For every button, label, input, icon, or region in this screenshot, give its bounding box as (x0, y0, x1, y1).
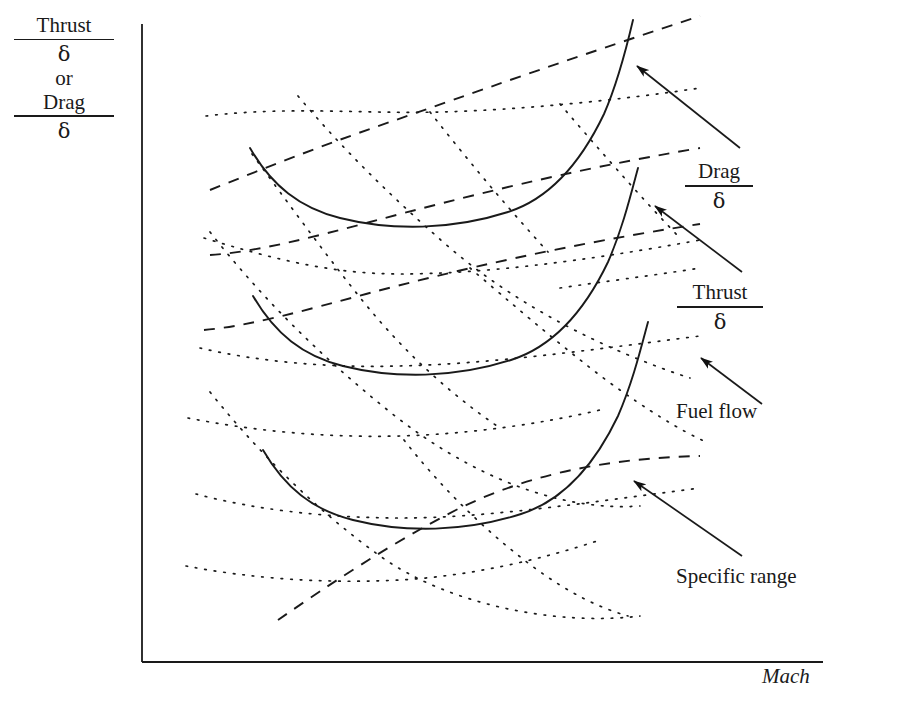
thrust-curve-1 (210, 16, 700, 190)
fuel-flow-callout-arrow (701, 358, 762, 404)
x-axis-label: Mach (762, 664, 810, 689)
thrust-curve-4 (278, 456, 700, 620)
fuel-flow-line-3 (200, 336, 700, 366)
specific-range-line-5 (470, 268, 706, 442)
callout-label-specific-range: Specific range (676, 565, 797, 588)
specific-range-line-7 (560, 104, 678, 236)
callout-label-thrust: Thrust δ (675, 281, 765, 334)
fuel-flow-line-5 (186, 540, 600, 581)
specific-range-line-3 (210, 392, 640, 619)
callout-thrust-denominator: δ (675, 311, 765, 334)
drag-callout-arrow (637, 66, 740, 148)
drag-curve-2 (253, 168, 638, 375)
thrust-curve-2 (210, 148, 700, 255)
thrust-curve-3 (204, 224, 700, 330)
specific-range-callout-arrow (634, 481, 742, 556)
figure-canvas: Thrust δ or Drag δ (0, 0, 915, 717)
drag-curve-1 (250, 20, 633, 227)
thrust-callout-arrow (655, 206, 742, 272)
fuel-flow-line-6 (188, 410, 600, 436)
callout-label-fuel-flow: Fuel flow (676, 400, 757, 423)
callout-label-drag: Drag δ (683, 160, 755, 213)
callout-drag-rule (685, 185, 753, 187)
callout-drag-denominator: δ (683, 190, 755, 213)
specific-range-dotted-lines (210, 96, 706, 619)
specific-range-line-1 (298, 96, 690, 378)
callout-thrust-rule (677, 306, 763, 308)
thrust-dashed-curves (204, 16, 700, 620)
fuel-flow-line-2 (204, 238, 700, 274)
plot-area (0, 0, 915, 717)
callout-drag-numerator: Drag (683, 160, 755, 183)
callout-thrust-numerator: Thrust (675, 281, 765, 304)
fuel-flow-line-1 (206, 88, 700, 116)
